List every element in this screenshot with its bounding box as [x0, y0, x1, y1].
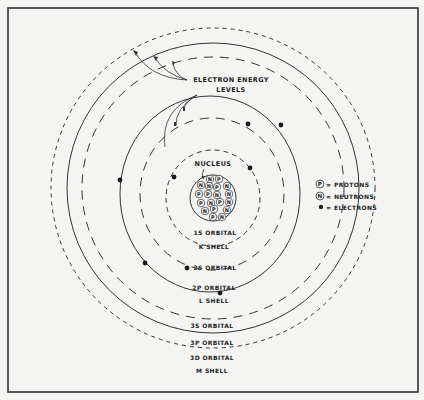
legend-neutrons-label: = NEUTRONS	[326, 193, 374, 200]
particle-symbol: P	[217, 176, 221, 182]
legend-electrons-label: = ELECTRONS	[326, 204, 377, 211]
particle-symbol: N	[207, 183, 212, 189]
label-2s-orbital: 2S ORBITAL	[193, 264, 236, 271]
electron-symbol-icon	[319, 205, 323, 209]
energy-levels-label-line1: ELECTRON ENERGY	[193, 76, 269, 84]
label-m-shell: M SHELL	[196, 367, 228, 374]
particle-symbol: N	[199, 182, 204, 188]
particle-symbol: P	[197, 191, 201, 197]
particle-symbol: N	[227, 199, 232, 205]
label-k-shell: K SHELL	[199, 243, 230, 250]
particle-symbol: P	[218, 199, 222, 205]
particle-symbol: P	[211, 214, 215, 220]
legend: P = PROTONS N = NEUTRONS = ELECTRONS	[316, 180, 377, 211]
particle-symbol: N	[220, 214, 225, 220]
svg-text:N: N	[317, 193, 322, 199]
label-3d-orbital: 3D ORBITAL	[190, 354, 234, 361]
particle-symbol: P	[199, 200, 203, 206]
particle-symbol: N	[225, 207, 230, 213]
electron-dot	[172, 175, 177, 180]
label-3p-orbital: 3P ORBITAL	[190, 339, 233, 346]
electron-dot	[118, 178, 123, 183]
label-l-shell: L SHELL	[199, 297, 229, 304]
electron-dot	[143, 261, 148, 266]
particle-symbol: P	[206, 191, 210, 197]
particle-symbol: N	[208, 176, 213, 182]
particle-symbol: N	[215, 192, 220, 198]
energy-levels-label-line2: LEVELS	[216, 86, 245, 94]
particle-symbol: N	[227, 191, 232, 197]
electron-dot	[248, 166, 253, 171]
nucleus-particles: NPNNPNPPNNPNPNNPNPN	[195, 175, 233, 221]
label-1s-orbital: 1S ORBITAL	[193, 229, 236, 236]
electron-dot	[185, 266, 190, 271]
electron-dot	[218, 291, 223, 296]
label-2p-orbital: 2P ORBITAL	[192, 284, 235, 291]
svg-text:P: P	[318, 181, 322, 187]
label-3s-orbital: 3S ORBITAL	[190, 322, 233, 329]
electron-dot	[246, 122, 251, 127]
atom-diagram: NPNNPNPPNNPNPNNPNPN NUCLEUS ELECTRON ENE…	[0, 0, 424, 400]
particle-symbol: P	[215, 184, 219, 190]
electron-dot	[279, 123, 284, 128]
particle-symbol: N	[225, 183, 230, 189]
particle-symbol: N	[203, 208, 208, 214]
particle-symbol: P	[212, 206, 216, 212]
legend-protons-label: = PROTONS	[326, 181, 369, 188]
nucleus-label: NUCLEUS	[195, 160, 232, 168]
